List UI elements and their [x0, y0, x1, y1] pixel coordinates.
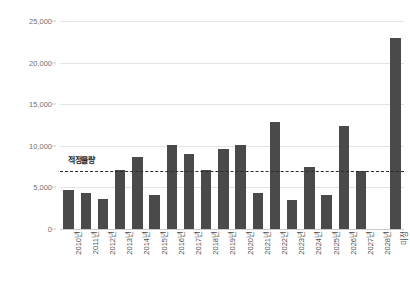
bar[interactable]: [253, 193, 263, 229]
x-tick-label: 2014년: [140, 231, 151, 255]
bar-slot: [287, 21, 297, 229]
x-tick-label: 2012년: [106, 231, 117, 255]
x-tick-label: 2013년: [123, 231, 134, 255]
x-tick-label: 2011년: [89, 231, 100, 254]
bar[interactable]: [63, 190, 73, 229]
y-tick-mark: [52, 187, 56, 188]
bar-chart: 25,000 20,000 15,000 10,000 5,000 0 적정물량…: [0, 0, 410, 282]
x-tick-label: 2015년: [158, 231, 169, 255]
x-tick-label: 미정: [398, 231, 409, 245]
bar-slot: [149, 21, 159, 229]
y-tick-label: 20,000: [29, 58, 52, 67]
reference-line: [60, 171, 404, 172]
bar[interactable]: [390, 38, 400, 229]
x-tick-label: 2017년: [192, 231, 203, 255]
x-tick-label: 2023년: [295, 231, 306, 255]
x-tick-label: 2028년: [381, 231, 392, 255]
y-tick-label: 5,000: [33, 183, 52, 192]
bar-slot: [253, 21, 263, 229]
bar[interactable]: [321, 195, 331, 229]
x-tick-label: 2026년: [347, 231, 358, 255]
y-tick-mark: [52, 229, 56, 230]
x-tick-label: 2025년: [330, 231, 341, 255]
bar[interactable]: [218, 149, 228, 229]
y-axis: 25,000 20,000 15,000 10,000 5,000 0: [0, 0, 56, 282]
bar[interactable]: [235, 145, 245, 229]
x-tick-label: 2021년: [261, 231, 272, 255]
bar-slot: [235, 21, 245, 229]
bar-slot: [98, 21, 108, 229]
y-tick-mark: [52, 145, 56, 146]
y-tick-mark: [52, 62, 56, 63]
bar-slot: [167, 21, 177, 229]
bar[interactable]: [167, 145, 177, 229]
bar-slot: [390, 21, 400, 229]
x-axis: 2010년2011년2012년2013년2014년2015년2016년2017년…: [60, 231, 404, 281]
bar[interactable]: [270, 122, 280, 229]
plot-area: 적정물량: [60, 21, 404, 229]
bar-slot: [201, 21, 211, 229]
x-tick-label: 2019년: [226, 231, 237, 255]
bar[interactable]: [115, 170, 125, 229]
x-tick-label: 2010년: [72, 231, 83, 255]
bar[interactable]: [201, 170, 211, 229]
x-tick-label: 2024년: [312, 231, 323, 255]
y-tick-mark: [52, 104, 56, 105]
bar[interactable]: [304, 167, 314, 229]
bar-slot: [356, 21, 366, 229]
y-tick-label: 15,000: [29, 100, 52, 109]
bar[interactable]: [184, 154, 194, 229]
bar-slot: [373, 21, 383, 229]
bar-slot: [81, 21, 91, 229]
bar-slot: [184, 21, 194, 229]
x-tick-label: 2020년: [244, 231, 255, 255]
bar[interactable]: [149, 195, 159, 229]
x-tick-label: 2022년: [278, 231, 289, 255]
bar[interactable]: [81, 193, 91, 229]
bar[interactable]: [339, 126, 349, 229]
bar-slot: [115, 21, 125, 229]
y-tick-label: 10,000: [29, 141, 52, 150]
bar[interactable]: [132, 157, 142, 229]
y-tick-mark: [52, 21, 56, 22]
bar-series: [60, 21, 404, 229]
x-tick-label: 2016년: [175, 231, 186, 255]
x-tick-label: 2027년: [364, 231, 375, 255]
y-tick-label: 25,000: [29, 17, 52, 26]
bar-slot: [218, 21, 228, 229]
bar-slot: [304, 21, 314, 229]
bar[interactable]: [356, 171, 366, 229]
bar[interactable]: [287, 200, 297, 229]
x-tick-label: 2018년: [209, 231, 220, 255]
reference-line-label: 적정물량: [68, 154, 95, 165]
bar-slot: [63, 21, 73, 229]
bar[interactable]: [98, 199, 108, 229]
bar-slot: [270, 21, 280, 229]
bar-slot: [132, 21, 142, 229]
bar-slot: [321, 21, 331, 229]
bar-slot: [339, 21, 349, 229]
